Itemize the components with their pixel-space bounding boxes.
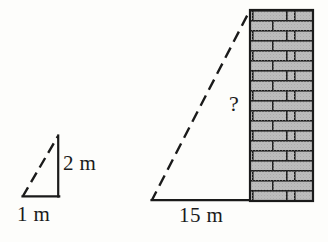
unknown-height-label: ?: [229, 92, 239, 116]
brick-wall-group: [250, 10, 313, 201]
brick-wall-texture-overlay: [250, 10, 313, 201]
small-triangle-hypotenuse: [23, 136, 58, 196]
large-triangle-base-label: 15 m: [179, 203, 223, 227]
small-triangle-base-label: 1 m: [17, 202, 50, 226]
small-triangle-group: [23, 136, 60, 197]
figure-canvas: 2 m 1 m 15 m ?: [0, 0, 328, 242]
small-triangle-height-label: 2 m: [63, 151, 96, 175]
